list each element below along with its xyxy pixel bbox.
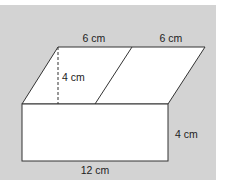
label-top-right-width: 6 cm: [160, 32, 183, 44]
label-parallelogram-height: 4 cm: [62, 71, 85, 83]
label-top-left-width: 6 cm: [83, 32, 106, 44]
label-rectangle-length: 12 cm: [81, 164, 110, 176]
front-rectangle: [22, 104, 168, 161]
label-rectangle-height: 4 cm: [175, 128, 198, 140]
prism-diagram: 6 cm 6 cm 4 cm 4 cm 12 cm: [0, 0, 226, 184]
